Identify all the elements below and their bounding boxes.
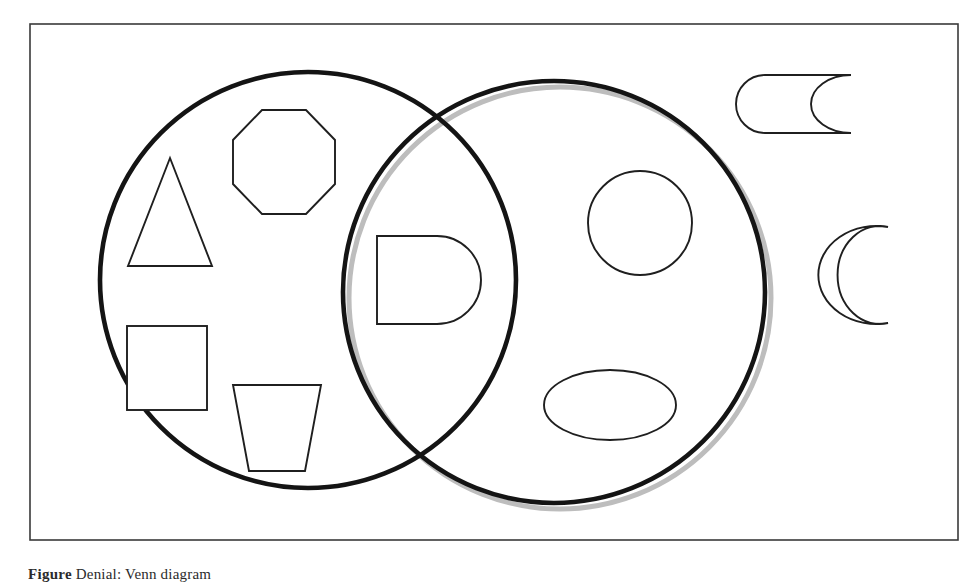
square-shape: [127, 326, 207, 410]
d-shape: [377, 236, 481, 324]
trapezoid-shape: [233, 385, 321, 471]
ellipse-shape: [544, 370, 676, 440]
figure-caption: Figure Denial: Venn diagram: [28, 566, 928, 583]
figure-caption-text: Denial: Venn diagram: [76, 566, 211, 582]
figure-caption-label: Figure: [28, 566, 72, 582]
circle-shape: [588, 171, 692, 275]
octagon-shape: [233, 110, 335, 214]
